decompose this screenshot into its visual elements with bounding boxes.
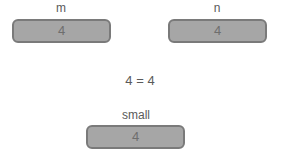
field-m[interactable]: 4 (12, 19, 111, 43)
label-n: n (168, 1, 266, 15)
field-n[interactable]: 4 (168, 19, 267, 43)
comparison-text: 4 = 4 (90, 73, 190, 88)
field-small[interactable]: 4 (86, 125, 185, 149)
label-m: m (12, 1, 110, 15)
label-small: small (87, 108, 185, 122)
